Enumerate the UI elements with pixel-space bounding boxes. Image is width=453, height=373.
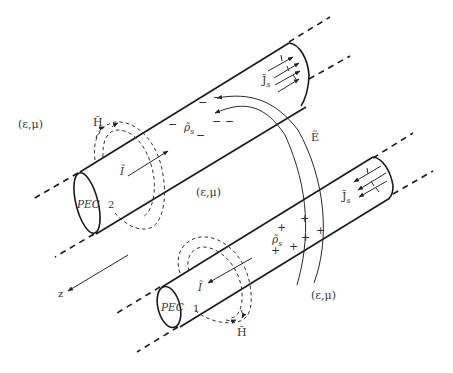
diagram-canvas: − − − − − − + + + + + + (ε,μ) (ε,μ) (ε,μ… <box>0 0 453 373</box>
conductor-1-dashed-extension-top-right <box>373 133 413 158</box>
h-field-loop-1-outer <box>178 237 251 323</box>
conductor-2-top-edge <box>80 43 289 172</box>
conductor-number-2: 2 <box>108 199 114 210</box>
charge-sign-positive: + <box>277 221 286 234</box>
current-arrow-conductor-1 <box>208 258 252 283</box>
z-axis-label: z <box>58 288 63 299</box>
h-field-label-conductor-1: H̃ <box>237 326 247 339</box>
surface-current-arrow <box>278 79 299 92</box>
charge-sign-negative: − <box>212 115 221 128</box>
conductor-1-dashed-extension-bottom-left <box>137 327 178 352</box>
e-field-label: Ẽ <box>311 130 319 144</box>
conductor-number-1: 1 <box>193 303 199 314</box>
h-field-arrow-1 <box>226 320 236 321</box>
charge-sign-negative: − <box>198 96 207 109</box>
h-field-label-conductor-2: H̃ <box>93 116 103 129</box>
surface-current-subscript: s <box>346 196 350 205</box>
conductor-1-top-edge <box>162 157 373 287</box>
charge-label-conductor-2: ρ̃s <box>183 121 194 136</box>
medium-label-center: (ε,μ) <box>196 186 221 199</box>
surface-current-tick <box>293 75 296 79</box>
pec-label-conductor-2: PEC <box>76 198 100 210</box>
charge-subscript: s <box>278 239 282 248</box>
conductor-2-dashed-extension-top-left <box>33 173 78 199</box>
charge-sign-negative: − <box>213 91 222 104</box>
charge-sign-positive: + <box>300 212 309 225</box>
charge-subscript: s <box>190 127 194 136</box>
h-field-arrow-2b <box>112 123 118 127</box>
z-axis-arrow <box>68 255 128 291</box>
conductor-2-dashed-extension-bottom-right <box>309 56 350 79</box>
charge-sign-positive: + <box>289 240 298 253</box>
negative-charges: − − − − − − <box>168 91 234 142</box>
charge-sign-positive: + <box>301 231 310 244</box>
surface-current-arrow <box>358 173 386 190</box>
charge-sign-negative: − <box>168 118 177 131</box>
conductor-1-dashed-extension-top-left <box>117 287 160 313</box>
surface-current-tick <box>281 55 282 61</box>
current-label-conductor-2: Ĩ <box>119 164 125 177</box>
conductor-1-bottom-edge <box>180 198 390 327</box>
surface-current-tick <box>376 188 379 192</box>
pec-label-conductor-1: PEC <box>160 301 184 313</box>
current-label-conductor-1: Ĩ <box>197 280 203 293</box>
surface-current-arrows-conductor-2 <box>268 55 300 92</box>
charge-sign-negative: − <box>225 115 234 128</box>
surface-current-label-conductor-1: J̃s <box>341 190 350 205</box>
surface-current-label-conductor-2: J̃s <box>261 74 270 89</box>
medium-label-right: (ε,μ) <box>311 289 336 302</box>
medium-label-left: (ε,μ) <box>18 118 43 131</box>
conductor-1-back-cap <box>373 157 393 198</box>
conductor-2-dashed-extension-top-right <box>289 17 330 42</box>
conductor-2-bottom-edge <box>96 107 306 234</box>
surface-current-arrow <box>275 71 300 85</box>
conductor-2-back-cap <box>289 43 309 106</box>
h-field-arrow-1b <box>241 310 243 318</box>
surface-current-tick <box>367 168 368 174</box>
charge-sign-positive: + <box>316 224 325 237</box>
h-field-loops-conductor-1 <box>178 237 251 323</box>
conductor-2-dashed-extension-bottom-left <box>55 234 94 257</box>
charge-sign-negative: − <box>196 129 205 142</box>
surface-current-subscript: s <box>266 80 270 89</box>
conductor-1-dashed-extension-bottom-right <box>393 171 433 194</box>
current-arrow-conductor-2 <box>128 151 168 176</box>
surface-current-arrows-conductor-1 <box>354 166 387 197</box>
positive-charges: + + + + + + <box>271 212 325 257</box>
